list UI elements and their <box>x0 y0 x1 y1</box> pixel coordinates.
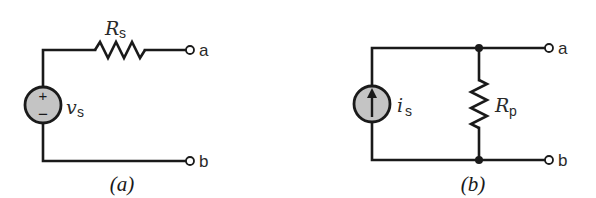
resistor-rp-icon <box>471 80 487 128</box>
terminal-b-icon <box>186 157 194 165</box>
wire-b-bottom <box>372 122 545 160</box>
label-rp-symbol: R <box>494 94 509 116</box>
resistor-rs-icon <box>95 42 145 58</box>
label-is-symbol: i <box>397 94 403 116</box>
wire-a-bottom <box>43 123 186 161</box>
terminal-a-label: a <box>558 39 568 58</box>
voltage-source-icon: + − <box>25 87 61 124</box>
wire-b-top <box>372 48 545 86</box>
polarity-plus: + <box>39 87 48 104</box>
label-is-subscript: s <box>405 103 412 119</box>
panel-a-voltage-source-circuit: + − R s v s a b (a) <box>25 17 209 196</box>
terminal-b-label: b <box>558 151 567 170</box>
caption-a: (a) <box>110 172 135 196</box>
terminal-b-label: b <box>199 152 208 171</box>
current-source-icon <box>354 86 390 122</box>
circuit-figure: + − R s v s a b (a) i <box>0 0 596 198</box>
label-vs-symbol: v <box>66 96 77 118</box>
terminal-a-icon <box>545 44 553 52</box>
label-vs-subscript: s <box>77 104 84 120</box>
junction-top-icon <box>475 44 483 52</box>
terminal-a-icon <box>186 46 194 54</box>
label-rp-subscript: p <box>509 103 517 119</box>
junction-bottom-icon <box>475 156 483 164</box>
wire-a-top-left <box>43 50 95 87</box>
polarity-minus: − <box>38 105 48 124</box>
terminal-a-label: a <box>199 41 209 60</box>
caption-b: (b) <box>461 172 486 196</box>
label-rs-subscript: s <box>119 25 126 41</box>
label-rs-symbol: R <box>104 17 119 39</box>
panel-b-current-source-circuit: i s R p a b (b) <box>354 39 568 196</box>
terminal-b-icon <box>545 156 553 164</box>
